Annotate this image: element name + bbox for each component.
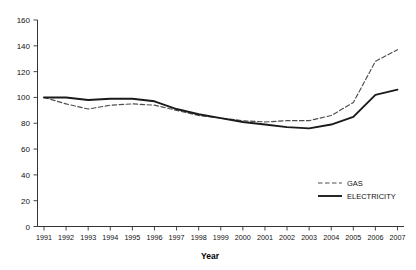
y-tick-label: 20	[21, 197, 30, 206]
chart-canvas: 020406080100120140160 199119921993199419…	[0, 0, 416, 270]
y-tick-label: 80	[21, 119, 30, 128]
y-tick-label: 140	[17, 42, 31, 51]
x-tick-label: 2007	[390, 233, 406, 242]
x-tick-label: 1996	[146, 233, 162, 242]
y-tick-label: 160	[17, 16, 31, 25]
x-axis-ticks: 1991199219931994199519961997199819992000…	[36, 227, 406, 243]
y-tick-label: 100	[17, 93, 31, 102]
x-tick-label: 1993	[80, 233, 96, 242]
x-tick-label: 1999	[213, 233, 229, 242]
x-tick-label: 2006	[367, 233, 383, 242]
x-tick-label: 2005	[345, 233, 361, 242]
chart-legend: GASELECTRICITY	[318, 179, 396, 201]
x-tick-label: 1994	[102, 233, 118, 242]
x-tick-label: 2003	[301, 233, 317, 242]
series-line-electricity	[44, 90, 398, 129]
x-tick-label: 2000	[235, 233, 251, 242]
x-tick-label: 2004	[323, 233, 339, 242]
x-tick-label: 1998	[191, 233, 207, 242]
x-tick-label: 2001	[257, 233, 273, 242]
legend-label-electricity: ELECTRICITY	[347, 192, 396, 201]
legend-label-gas: GAS	[347, 179, 363, 188]
y-tick-label: 0	[26, 223, 31, 232]
x-tick-label: 1997	[169, 233, 185, 242]
line-chart: 020406080100120140160 199119921993199419…	[0, 0, 416, 270]
x-tick-label: 1992	[58, 233, 74, 242]
x-tick-label: 1995	[124, 233, 140, 242]
series-layer	[44, 50, 398, 129]
x-axis-title: Year	[201, 251, 220, 261]
y-tick-label: 120	[17, 68, 31, 77]
x-tick-label: 1991	[36, 233, 52, 242]
series-line-gas	[44, 50, 398, 122]
y-axis-ticks: 020406080100120140160	[17, 16, 38, 232]
x-tick-label: 2002	[279, 233, 295, 242]
y-tick-label: 40	[21, 171, 30, 180]
y-tick-label: 60	[21, 145, 30, 154]
